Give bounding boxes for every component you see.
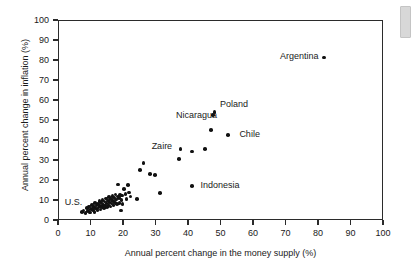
- data-point: [138, 168, 142, 172]
- x-axis-tick: [90, 220, 91, 225]
- data-point: [126, 183, 130, 187]
- point-annotation-zaire: Zaire: [152, 141, 173, 151]
- y-axis-tick-label: 60: [23, 95, 49, 105]
- point-annotation-argentina: Argentina: [280, 51, 319, 61]
- x-axis-tick-label: 10: [77, 228, 105, 238]
- data-point: [148, 172, 152, 176]
- data-point: [121, 202, 125, 206]
- x-axis-tick-label: 20: [109, 228, 137, 238]
- data-point: [190, 150, 194, 154]
- point-annotation-us: U.S.: [65, 197, 83, 207]
- data-point: [116, 183, 120, 187]
- x-axis-tick-label: 60: [239, 228, 267, 238]
- x-axis-tick-label: 100: [369, 228, 397, 238]
- point-annotation-indonesia: Indonesia: [200, 180, 239, 190]
- data-point: [153, 173, 157, 177]
- point-annotation-chile: Chile: [239, 129, 260, 139]
- x-axis-tick: [122, 220, 123, 225]
- y-axis-tick-label: 10: [23, 195, 49, 205]
- data-point: [209, 128, 213, 132]
- x-axis-tick-label: 70: [272, 228, 300, 238]
- data-point: [119, 209, 123, 213]
- data-point: [127, 191, 131, 195]
- y-axis-tick-label: 90: [23, 35, 49, 45]
- x-axis-title: Annual percent change in the money suppl…: [58, 248, 383, 258]
- x-axis-tick: [285, 220, 286, 225]
- x-axis-tick: [220, 220, 221, 225]
- data-point: [190, 184, 194, 188]
- x-axis-tick: [155, 220, 156, 225]
- data-point: [129, 195, 133, 199]
- y-axis-tick-label: 80: [23, 55, 49, 65]
- x-axis-tick-label: 30: [142, 228, 170, 238]
- y-axis-tick-label: 100: [23, 15, 49, 25]
- data-point: [142, 161, 146, 165]
- point-annotation-poland: Poland: [220, 99, 248, 109]
- x-axis-tick-label: 40: [174, 228, 202, 238]
- x-axis-tick: [382, 220, 383, 225]
- point-annotation-nicaragua: Nicaragua: [176, 110, 217, 120]
- data-point: [203, 147, 207, 151]
- x-axis-tick: [252, 220, 253, 225]
- y-axis-tick-label: 20: [23, 175, 49, 185]
- data-point: [122, 187, 126, 191]
- y-axis-tick-label: 0: [23, 215, 49, 225]
- data-point: [179, 147, 183, 151]
- x-axis-tick: [317, 220, 318, 225]
- data-point: [158, 191, 162, 195]
- plot-area: ArgentinaPolandNicaraguaChileZaireIndone…: [58, 20, 383, 220]
- x-axis-tick-label: 50: [207, 228, 235, 238]
- data-point: [135, 197, 139, 201]
- y-axis-tick-label: 30: [23, 155, 49, 165]
- scatter-plot-figure: Annual percent change in inflation (%) 0…: [0, 0, 415, 267]
- x-axis-tick: [57, 220, 58, 225]
- data-point: [226, 133, 230, 137]
- data-point: [177, 157, 181, 161]
- data-point: [322, 56, 326, 60]
- data-point: [125, 197, 129, 201]
- scrollbar-thumb-artifact[interactable]: [400, 6, 411, 38]
- x-axis-tick-label: 90: [337, 228, 365, 238]
- y-axis-tick-label: 50: [23, 115, 49, 125]
- x-axis-tick-label: 80: [304, 228, 332, 238]
- y-axis-tick-label: 40: [23, 135, 49, 145]
- x-axis-tick-label: 0: [44, 228, 72, 238]
- x-axis-tick: [350, 220, 351, 225]
- x-axis-tick: [187, 220, 188, 225]
- y-axis-tick-label: 70: [23, 75, 49, 85]
